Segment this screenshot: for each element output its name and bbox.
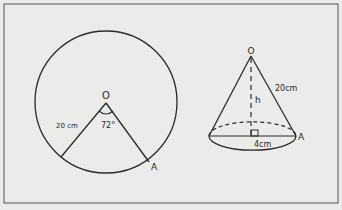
circle-figure: O 20 cm 72° A xyxy=(35,31,177,173)
cone-figure: O 20cm h 4cm A xyxy=(209,46,305,150)
base-back-dashed xyxy=(209,122,296,136)
slant-label: 20cm xyxy=(275,84,298,93)
diagram-canvas: O 20 cm 72° A O 20cm h 4cm A xyxy=(0,0,342,210)
apex-label: O xyxy=(247,46,254,56)
circle-outline xyxy=(35,31,177,173)
point-a-label: A xyxy=(151,162,158,172)
cone-left-edge xyxy=(209,56,251,136)
radius-label: 4cm xyxy=(254,140,271,149)
right-angle-marker xyxy=(251,130,258,136)
angle-arc xyxy=(99,111,113,114)
radius-label: 20 cm xyxy=(56,122,78,130)
height-label: h xyxy=(255,95,261,105)
center-label: O xyxy=(102,90,110,101)
point-a-label: A xyxy=(298,132,305,142)
angle-label: 72° xyxy=(101,121,115,130)
base-front xyxy=(209,136,296,150)
frame-border xyxy=(4,4,338,203)
